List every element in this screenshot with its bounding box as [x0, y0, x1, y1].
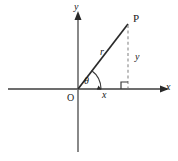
vertical-side-y-label: y: [135, 52, 139, 62]
origin-label: O: [67, 93, 74, 103]
horizontal-side-x-label: x: [102, 90, 106, 100]
figure-root: y x P O r y x θ: [0, 0, 178, 161]
coordinate-diagram: [0, 0, 178, 161]
y-axis-arrowhead-icon: [75, 11, 82, 20]
point-p-label: P: [133, 13, 139, 24]
right-angle-marker-icon: [121, 82, 128, 89]
y-axis-label: y: [74, 2, 78, 12]
angle-theta-label: θ: [84, 76, 89, 86]
x-axis-label: x: [166, 82, 170, 92]
theta-angle-arc: [92, 71, 102, 90]
hypotenuse-r-label: r: [100, 47, 104, 57]
